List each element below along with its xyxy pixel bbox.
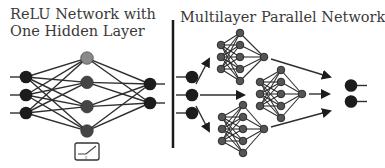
output-node <box>345 95 358 108</box>
subnet-node <box>239 137 247 145</box>
subnet-node <box>239 113 247 121</box>
subnet-node <box>277 78 285 86</box>
subnet-node <box>277 114 285 122</box>
edge <box>26 107 87 113</box>
input-node <box>20 107 33 120</box>
subnet-node <box>260 53 268 61</box>
subnet-node <box>236 65 244 73</box>
arrow-to-top-subnet <box>196 59 209 84</box>
edge <box>87 82 150 103</box>
subnet-node <box>236 41 244 49</box>
edge <box>26 58 87 95</box>
edge <box>26 58 87 77</box>
hidden-node <box>81 100 94 113</box>
subnet-node <box>256 102 264 110</box>
subnet-node <box>256 78 264 86</box>
subnet-node <box>236 77 244 85</box>
edge <box>26 82 87 113</box>
hidden-node <box>81 125 94 138</box>
hidden-node <box>81 76 94 89</box>
output-node <box>144 78 157 91</box>
subnet-node <box>217 53 225 61</box>
subnet-node <box>239 149 247 157</box>
subnet-node <box>277 90 285 98</box>
subnet-node <box>260 125 268 133</box>
relu-network-diagram <box>10 52 165 138</box>
edge <box>87 82 150 84</box>
output-node <box>345 79 358 92</box>
subnet-node <box>236 29 244 37</box>
subnet-node <box>239 101 247 109</box>
subnet-node <box>218 125 226 133</box>
arrow-to-bottom-subnet <box>196 106 209 131</box>
input-node <box>186 89 199 102</box>
input-node <box>20 71 33 84</box>
input-node <box>20 89 33 102</box>
subnet-node <box>217 41 225 49</box>
hidden-node <box>81 52 94 65</box>
subnet-node <box>277 102 285 110</box>
subnet-node <box>218 113 226 121</box>
subnet-node <box>236 53 244 61</box>
subnet-node <box>298 90 306 98</box>
subnet-node <box>217 65 225 73</box>
parallel-network-diagram <box>176 29 367 157</box>
subnet-node <box>239 125 247 133</box>
subnet-node <box>256 90 264 98</box>
input-node <box>186 71 199 84</box>
input-node <box>186 107 199 120</box>
relu-icon: 0 <box>75 143 99 160</box>
relu-zero-label: 0 <box>85 155 88 160</box>
subnet-node <box>218 137 226 145</box>
output-node <box>144 97 157 110</box>
subnet-node <box>277 66 285 74</box>
